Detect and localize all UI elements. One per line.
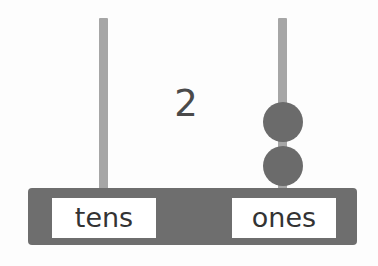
column-label-ones: ones	[232, 198, 336, 238]
bead-ones-1	[263, 102, 303, 142]
rod-tens	[99, 18, 108, 200]
abacus-diagram: 2 tens ones	[0, 0, 378, 266]
bead-ones-2	[263, 146, 303, 186]
column-label-tens: tens	[52, 198, 156, 238]
value-numeral: 2	[160, 82, 212, 126]
